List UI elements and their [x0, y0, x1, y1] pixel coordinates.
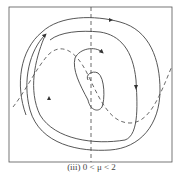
middle-trajectory: [34, 31, 137, 141]
inner-spiral: [74, 49, 104, 110]
phase-portrait: [0, 0, 183, 184]
arrowhead-top: [109, 18, 113, 22]
arrowhead-right: [134, 85, 138, 90]
figure-caption: (iii) 0 < μ < 2: [0, 162, 183, 172]
outer-trajectory: [20, 18, 160, 151]
arrowhead-left: [47, 96, 51, 100]
